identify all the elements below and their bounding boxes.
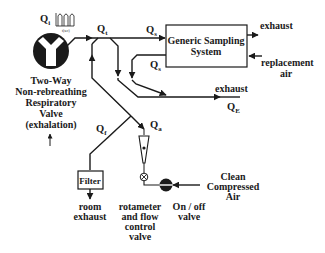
sampling-system-label-2: System bbox=[191, 46, 222, 57]
svg-text:Valve: Valve bbox=[39, 108, 63, 119]
svg-text:Qi: Qi bbox=[40, 13, 50, 27]
onoff-valve-icon bbox=[160, 179, 173, 192]
qt-label: Qt bbox=[97, 23, 108, 37]
sampling-system-label: Generic Sampling bbox=[168, 35, 245, 46]
flow-diagram: Qi t(sec) Two-Way Non-rebreathing Respir… bbox=[0, 0, 325, 253]
qa-down-line bbox=[131, 116, 144, 129]
room-exhaust-label-2: exhaust bbox=[74, 211, 107, 222]
valve-connector-line bbox=[144, 181, 160, 185]
flow-control-valve-icon bbox=[140, 173, 148, 181]
filter-label: Filter bbox=[79, 176, 101, 186]
svg-text:Respiratory: Respiratory bbox=[25, 97, 76, 108]
qs-out-label: Qs bbox=[150, 59, 161, 73]
replacement-air-label-2: air bbox=[280, 68, 293, 79]
rotameter-float bbox=[142, 146, 145, 149]
qs-return-diag bbox=[132, 80, 166, 95]
svg-text:valve: valve bbox=[178, 211, 201, 222]
svg-text:(exhalation): (exhalation) bbox=[25, 119, 76, 131]
onoff-label: On / off valve bbox=[173, 201, 206, 222]
exhaust-mid-label: exhaust bbox=[215, 83, 248, 94]
valve-label: Two-Way Non-rebreathing Respiratory Valv… bbox=[15, 75, 86, 131]
qe-label: QE bbox=[227, 101, 240, 115]
qa-direction-arrow bbox=[110, 96, 120, 106]
qf-direction-arrow bbox=[108, 131, 116, 139]
qs-in-label: Qs bbox=[146, 24, 157, 38]
qa-up-to-qt bbox=[92, 38, 98, 44]
svg-text:Two-Way: Two-Way bbox=[31, 75, 72, 86]
qa-label: Qa bbox=[150, 119, 162, 133]
qt-main-line bbox=[67, 38, 92, 46]
svg-text:Air: Air bbox=[226, 191, 241, 202]
qi-label: Qi bbox=[40, 13, 50, 27]
respiratory-valve-icon bbox=[33, 33, 69, 69]
pulse-waveform-icon: t(sec) bbox=[56, 13, 74, 33]
exhaust-top-label: exhaust bbox=[260, 20, 293, 31]
qt-branch-down bbox=[110, 38, 118, 76]
qf-label: Qf bbox=[96, 123, 107, 137]
clean-air-label: Clean Compressed Air bbox=[207, 171, 260, 202]
svg-text:Non-rebreathing: Non-rebreathing bbox=[15, 86, 86, 97]
svg-text:valve: valve bbox=[129, 231, 152, 242]
rotameter-label: rotameter and flow control valve bbox=[119, 201, 162, 242]
svg-text:t(sec): t(sec) bbox=[62, 29, 71, 33]
replacement-air-label: replacement bbox=[261, 57, 314, 68]
